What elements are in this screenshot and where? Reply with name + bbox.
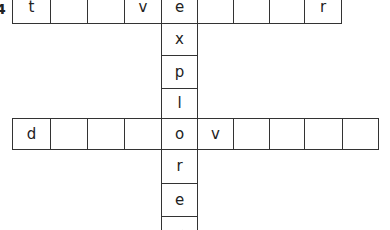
cell-top-6[interactable] [197,0,234,24]
cell-down-4[interactable]: l [161,88,198,119]
clue-number-4: 4 [0,2,6,16]
cell-top-3[interactable] [87,0,125,24]
cell-letter: v [139,0,148,15]
cell-down-6[interactable]: r [161,149,198,184]
cell-down-2[interactable]: x [161,23,198,56]
cell-top-9[interactable]: r [304,0,342,24]
cell-letter: p [175,65,185,80]
cell-letter: t [29,0,35,15]
cell-bottom-10[interactable] [342,118,379,150]
cell-top-7[interactable] [233,0,270,24]
cell-bottom-2[interactable] [50,118,88,150]
cell-letter: v [211,127,220,142]
cell-top-2[interactable] [50,0,88,24]
cell-top-5[interactable]: e [161,0,198,24]
cell-letter: r [176,227,182,230]
cell-bottom-4[interactable] [124,118,162,150]
cell-bottom-9[interactable] [304,118,343,150]
cell-bottom-8[interactable] [269,118,305,150]
cell-letter: o [175,127,184,142]
cell-letter: l [177,96,181,111]
cell-letter: r [320,0,326,15]
cell-top-8[interactable] [269,0,305,24]
cell-down-8[interactable]: r [161,216,198,230]
cell-top-1[interactable]: t [12,0,51,24]
cell-bottom-6[interactable]: v [197,118,234,150]
cell-bottom-3[interactable] [87,118,125,150]
cell-bottom-1[interactable]: d [12,118,51,150]
cell-letter: e [175,0,184,15]
cell-down-7[interactable]: e [161,183,198,217]
cell-letter: d [27,127,37,142]
cell-letter: x [175,32,184,47]
cell-letter: r [176,159,182,174]
cell-letter: e [175,193,184,208]
cell-bottom-5[interactable]: o [161,118,198,150]
cell-top-4[interactable]: v [124,0,162,24]
cell-bottom-7[interactable] [233,118,270,150]
cell-down-3[interactable]: p [161,55,198,89]
